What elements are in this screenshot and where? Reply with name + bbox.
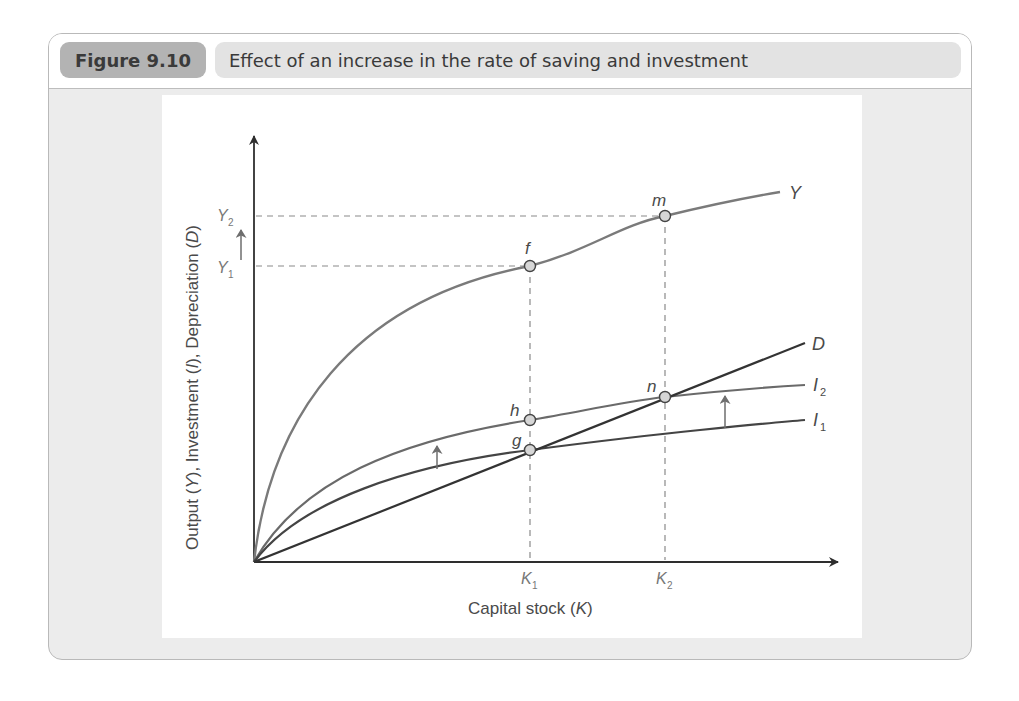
dashed-guides: [256, 216, 665, 560]
label-g: g: [512, 431, 522, 450]
svg-text:I: I: [813, 410, 818, 430]
svg-text:2: 2: [667, 580, 673, 591]
point-m: [660, 211, 671, 222]
label-f: f: [525, 239, 532, 258]
y-axis-label: Output (Y), Investment (I), Depreciation…: [183, 225, 202, 550]
curve-label-I1: I 1: [813, 410, 826, 433]
svg-text:1: 1: [532, 580, 538, 591]
y-tick-Y1: Y 1: [217, 259, 234, 280]
y-tick-Y2: Y 2: [217, 207, 234, 228]
curve-label-D: D: [812, 334, 825, 354]
point-n: [660, 392, 671, 403]
curve-label-Y: Y: [789, 183, 803, 203]
label-m: m: [652, 191, 666, 210]
output-curve-Y: [254, 192, 780, 562]
chart-svg: f m h g n Y D I 2 I 1 Y 2 Y 1 K 1 K 2 Ca…: [0, 0, 1019, 701]
x-axis-label: Capital stock (K): [468, 599, 593, 618]
point-g: [525, 445, 536, 456]
svg-text:1: 1: [228, 269, 234, 280]
point-f: [525, 261, 536, 272]
svg-text:2: 2: [820, 386, 826, 398]
x-tick-K2: K 2: [656, 570, 673, 591]
x-tick-K1: K 1: [521, 570, 538, 591]
svg-text:I: I: [813, 375, 818, 395]
curve-label-I2: I 2: [813, 375, 826, 398]
points: [525, 211, 671, 456]
point-h: [525, 415, 536, 426]
label-h: h: [510, 401, 519, 420]
svg-text:2: 2: [228, 217, 234, 228]
label-n: n: [647, 377, 656, 396]
svg-text:1: 1: [820, 421, 826, 433]
